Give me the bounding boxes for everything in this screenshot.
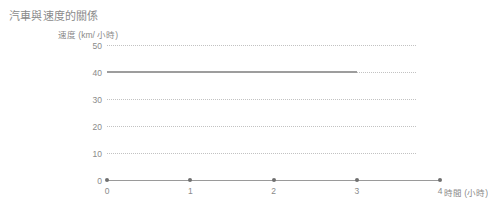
y-tick-label: 0: [97, 176, 102, 186]
y-tick-label: 30: [93, 95, 102, 105]
gridline: 20: [107, 126, 416, 127]
chart-title: 汽車與速度的關係: [9, 7, 99, 23]
x-tick-label: 1: [188, 186, 193, 196]
gridline: 50: [107, 45, 416, 46]
plot-area: 01020304050: [107, 45, 416, 180]
x-axis-label: 時間 (小時): [444, 186, 488, 198]
y-tick-label: 40: [93, 68, 102, 78]
y-tick-label: 50: [93, 41, 102, 51]
x-tick-label: 0: [105, 186, 110, 196]
y-axis-label: 速度 (km/ 小時): [58, 28, 118, 40]
y-tick-label: 10: [93, 149, 102, 159]
gridline: 30: [107, 99, 416, 100]
gridline: 10: [107, 153, 416, 154]
data-series-line: [107, 71, 357, 73]
x-tick-marker: [438, 178, 442, 182]
y-tick-label: 20: [93, 122, 102, 132]
x-tick-marker: [272, 178, 276, 182]
x-tick-marker: [105, 178, 109, 182]
x-tick-label: 3: [354, 186, 359, 196]
x-tick-marker: [188, 178, 192, 182]
x-tick-marker: [355, 178, 359, 182]
x-tick-label: 2: [271, 186, 276, 196]
x-tick-label: 4: [438, 186, 443, 196]
